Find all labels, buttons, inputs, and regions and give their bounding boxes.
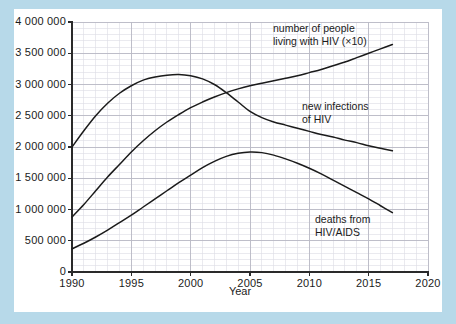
y-axis-tick-label: 0	[0, 265, 66, 277]
deaths-label-line: HIV/AIDS	[315, 226, 370, 239]
new-infections-label-line: of HIV	[302, 113, 369, 126]
y-axis-tick-label: 3 500 000	[0, 46, 66, 58]
x-axis-tick-label: 2000	[169, 277, 213, 289]
x-axis-title: Year	[210, 285, 270, 297]
new-infections-label-line: new infections	[302, 100, 369, 113]
chart-plot	[0, 0, 456, 324]
new-infections-label: new infectionsof HIV	[302, 100, 369, 125]
y-axis-tick-label: 2 500 000	[0, 109, 66, 121]
deaths-label-line: deaths from	[315, 213, 370, 226]
y-axis-tick-label: 1 500 000	[0, 171, 66, 183]
chart-page: 0500 0001 000 0001 500 0002 000 0002 500…	[0, 0, 456, 324]
x-axis-tick-label: 1990	[50, 277, 94, 289]
people-living-with-hiv-label-line: living with HIV (×10)	[273, 35, 367, 48]
people-living-with-hiv-label: number of peopleliving with HIV (×10)	[273, 22, 367, 47]
y-axis-tick-label: 500 000	[0, 234, 66, 246]
x-axis-tick-label: 2010	[287, 277, 331, 289]
series-line-1	[72, 45, 392, 218]
people-living-with-hiv-label-line: number of people	[273, 22, 367, 35]
x-axis-tick-label: 1995	[109, 277, 153, 289]
axis-ticks	[68, 22, 428, 276]
y-axis-tick-label: 3 000 000	[0, 78, 66, 90]
deaths-label: deaths fromHIV/AIDS	[315, 213, 370, 238]
x-axis-tick-label: 2015	[347, 277, 391, 289]
y-axis-tick-label: 4 000 000	[0, 15, 66, 27]
y-axis-tick-label: 2 000 000	[0, 140, 66, 152]
x-axis-tick-label: 2020	[406, 277, 450, 289]
y-axis-tick-label: 1 000 000	[0, 203, 66, 215]
